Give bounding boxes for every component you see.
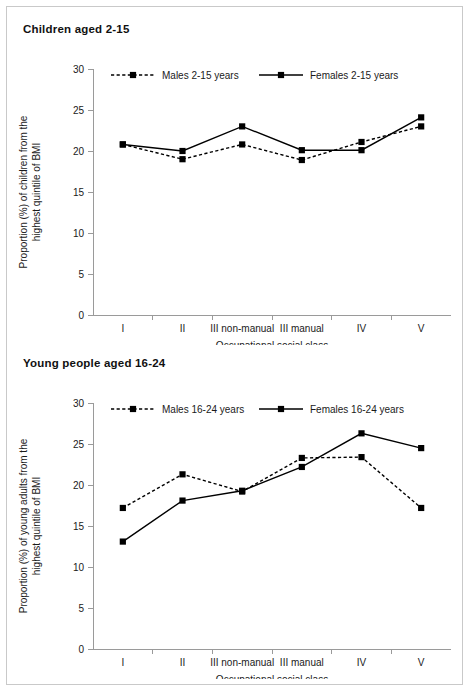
data-point-marker <box>418 123 424 129</box>
y-tick-label-0: 0 <box>78 310 84 321</box>
legend-item-males: Males 2-15 years <box>111 70 239 81</box>
y-tick-label-15: 15 <box>73 521 85 532</box>
x-category-label-4: IV <box>357 323 367 334</box>
x-category-label-5: V <box>418 657 425 668</box>
plot-area-young: 051015202530IIIIII non-manualIII manualI… <box>7 371 462 679</box>
data-point-marker <box>179 156 185 162</box>
x-category-label-1: II <box>180 657 186 668</box>
data-point-marker <box>299 464 305 470</box>
figure-frame: Children aged 2-15 051015202530IIIIII no… <box>6 6 463 685</box>
legend-marker-sample <box>130 406 136 412</box>
line-chart-young: 051015202530IIIIII non-manualIII manualI… <box>7 371 462 679</box>
y-tick-label-0: 0 <box>78 644 84 655</box>
x-category-label-3: III manual <box>280 657 324 668</box>
series-line-females <box>123 433 421 541</box>
data-point-marker <box>358 147 364 153</box>
y-tick-label-5: 5 <box>78 603 84 614</box>
x-category-label-2: III non-manual <box>210 657 274 668</box>
x-category-label-1: II <box>180 323 186 334</box>
legend-label: Males 16-24 years <box>162 404 244 415</box>
y-axis-title-group-1: Proportion (%) of young adults from the <box>18 438 29 613</box>
data-point-marker <box>179 471 185 477</box>
data-point-marker <box>120 538 126 544</box>
y-tick-label-25: 25 <box>73 105 85 116</box>
y-axis-title-line1: Proportion (%) of young adults from the <box>18 438 29 613</box>
y-tick-label-30: 30 <box>73 398 85 409</box>
y-tick-label-20: 20 <box>73 146 85 157</box>
legend-marker-sample <box>130 72 136 78</box>
data-point-marker <box>120 505 126 511</box>
figure-page: Children aged 2-15 051015202530IIIIII no… <box>0 0 469 698</box>
data-point-marker <box>179 497 185 503</box>
x-category-label-5: V <box>418 323 425 334</box>
panel-title-children: Children aged 2-15 <box>23 23 130 35</box>
data-point-marker <box>239 488 245 494</box>
data-point-marker <box>299 157 305 163</box>
x-axis-title: Occupational social class <box>216 340 328 345</box>
legend-marker-sample <box>278 406 284 412</box>
data-point-marker <box>418 445 424 451</box>
data-point-marker <box>239 123 245 129</box>
data-point-marker <box>179 148 185 154</box>
data-point-marker <box>418 505 424 511</box>
y-axis-title-line2: highest quintile of BMI <box>31 477 42 575</box>
legend-item-females: Females 2-15 years <box>259 70 398 81</box>
legend-item-females: Females 16-24 years <box>259 404 404 415</box>
y-axis-title-line1: Proportion (%) of children from the <box>18 115 29 268</box>
series-line-males <box>123 126 421 160</box>
y-axis-title-group-2: highest quintile of BMI <box>31 143 42 241</box>
data-point-marker <box>358 430 364 436</box>
legend-label: Males 2-15 years <box>162 70 239 81</box>
y-axis-title-group-2: highest quintile of BMI <box>31 477 42 575</box>
data-point-marker <box>358 139 364 145</box>
y-tick-label-10: 10 <box>73 562 85 573</box>
y-tick-label-5: 5 <box>78 269 84 280</box>
chart-panel-young: Young people aged 16-24 051015202530IIII… <box>7 347 462 681</box>
data-point-marker <box>418 114 424 120</box>
y-tick-label-25: 25 <box>73 439 85 450</box>
x-category-label-2: III non-manual <box>210 323 274 334</box>
panel-title-young: Young people aged 16-24 <box>23 357 165 369</box>
y-tick-label-30: 30 <box>73 64 85 75</box>
y-axis-title-group-1: Proportion (%) of children from the <box>18 115 29 268</box>
series-line-males <box>123 457 421 508</box>
x-category-label-0: I <box>121 323 124 334</box>
data-point-marker <box>299 455 305 461</box>
legend-label: Females 2-15 years <box>310 70 398 81</box>
cropped-caption-sliver <box>8 690 308 698</box>
data-point-marker <box>358 454 364 460</box>
x-category-label-3: III manual <box>280 323 324 334</box>
plot-area-children: 051015202530IIIIII non-manualIII manualI… <box>7 37 462 345</box>
legend-marker-sample <box>278 72 284 78</box>
y-tick-label-15: 15 <box>73 187 85 198</box>
legend-item-males: Males 16-24 years <box>111 404 244 415</box>
y-axis-title-line2: highest quintile of BMI <box>31 143 42 241</box>
x-axis-title: Occupational social class <box>216 674 328 679</box>
chart-panel-children: Children aged 2-15 051015202530IIIIII no… <box>7 13 462 347</box>
data-point-marker <box>120 141 126 147</box>
line-chart-children: 051015202530IIIIII non-manualIII manualI… <box>7 37 462 345</box>
y-tick-label-10: 10 <box>73 228 85 239</box>
series-line-females <box>123 117 421 151</box>
data-point-marker <box>239 141 245 147</box>
legend-label: Females 16-24 years <box>310 404 404 415</box>
y-tick-label-20: 20 <box>73 480 85 491</box>
x-category-label-4: IV <box>357 657 367 668</box>
data-point-marker <box>299 147 305 153</box>
x-category-label-0: I <box>121 657 124 668</box>
